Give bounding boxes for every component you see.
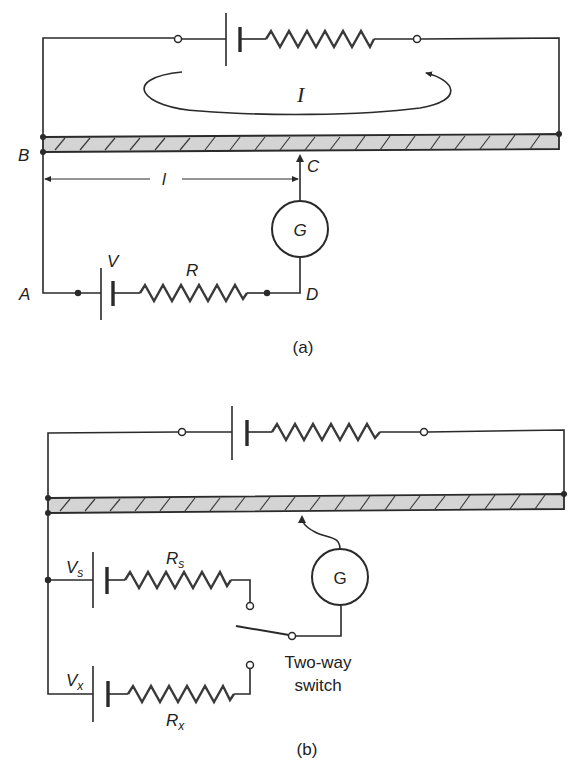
node-dot [561,491,567,497]
switch-terminal-icon [247,662,254,669]
resistor-label-rx: Rx [166,711,185,733]
figure-b: G Two-way switch Vs Rs [45,406,567,759]
galvanometer-label: G [293,221,306,240]
potentiometer-diagram: I [0,0,584,777]
node-dot [264,290,270,296]
wire-top-right [421,38,559,134]
figure-a: I [18,13,562,357]
node-dot [40,134,46,140]
driver-circuit-b [48,406,564,498]
resistor-icon [140,285,247,301]
figure-caption-b: (b) [297,740,318,759]
terminal-icon [175,36,182,43]
switch-terminal-icon [247,603,254,610]
node-label-a: A [18,285,30,304]
driver-circuit-a [43,13,559,137]
wire-galvanometer-to-switch [296,605,341,636]
resistor-icon [128,686,234,702]
current-label: I [296,82,306,107]
galvanometer-b: G [312,549,368,605]
wire-top-right [428,430,564,494]
battery-label-v: V [107,252,120,271]
node-label-b: B [18,146,29,165]
resistor-icon [266,31,374,47]
length-dimension: l [45,170,298,189]
node-dot [75,290,81,296]
resistor-label-r: R [186,261,198,280]
two-way-switch-icon [236,626,296,640]
resistor-label-rs: Rs [166,549,184,571]
terminal-icon [179,429,186,436]
standard-cell-branch: Vs Rs [48,549,254,610]
resistance-wire-bar [48,494,564,513]
test-circuit-a [43,152,270,320]
unknown-cell-branch: Vx Rx [66,662,254,734]
galvanometer-a: G [272,201,328,257]
wire-b-to-a [43,152,101,293]
voltage-label-vx: Vx [66,671,84,693]
galvanometer-label: G [333,569,346,588]
current-loop-icon: I [144,72,451,114]
wire [231,580,250,603]
node-label-d: D [306,285,318,304]
node-dot [45,495,51,501]
length-label: l [162,170,167,189]
slide-wire-a [40,131,562,155]
resistor-icon [272,424,380,440]
node-label-c: C [307,157,320,176]
switch-label-line1: Two-way [284,653,352,672]
wire-left-rail [48,513,93,694]
switch-label-line2: switch [294,676,341,695]
figure-caption-a: (a) [293,338,314,357]
node-dot [556,131,562,137]
wire-galvanometer-to-d [270,257,300,293]
resistance-wire-bar [43,134,559,152]
wire-top-left [48,432,178,498]
voltage-label-vs: Vs [66,558,83,580]
terminal-icon [414,36,421,43]
resistor-icon [125,572,231,588]
wire-top-left [43,38,174,137]
terminal-icon [421,429,428,436]
sliding-contact-arrow-icon [302,517,340,549]
wire [234,668,250,694]
slide-wire-b [45,491,567,516]
